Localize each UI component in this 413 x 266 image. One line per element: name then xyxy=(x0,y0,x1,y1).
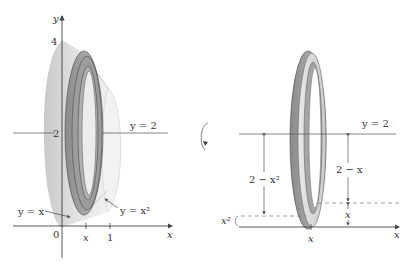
label-inner-radius: 2 − x xyxy=(336,164,363,175)
curve-label-y-x2: y = x² xyxy=(119,205,150,216)
curve-label-y-x: y = x xyxy=(17,206,44,217)
x-axis-label: x xyxy=(394,229,400,240)
x-axis-label: x xyxy=(167,229,173,240)
label-lower-offset: x² xyxy=(221,215,231,226)
right-panel: y = 2 x x 2 − x² 2 − x x x² xyxy=(221,51,400,244)
origin-label: 0 xyxy=(53,229,59,240)
x-tick-x: x xyxy=(83,232,89,243)
y-tick-4: 4 xyxy=(51,36,57,47)
line-label-y-2: y = 2 xyxy=(361,118,389,129)
washer-hole xyxy=(82,71,96,195)
brace-icon xyxy=(235,216,238,226)
washer-hole xyxy=(309,68,321,208)
label-inner-offset: x xyxy=(345,209,351,220)
line-label-y-2: y = 2 xyxy=(129,120,157,131)
washer-method-diagram: y = 2 y 4 2 0 x 1 x y = x y = x² y = 2 xyxy=(0,0,413,266)
rotate-arrow-icon xyxy=(201,123,208,150)
left-panel: y = 2 y 4 2 0 x 1 x y = x y = x² xyxy=(13,13,173,258)
x-tick-1: 1 xyxy=(107,232,113,243)
label-outer-radius: 2 − x² xyxy=(249,174,280,185)
y-axis-label: y xyxy=(52,13,59,24)
y-tick-2: 2 xyxy=(53,128,59,139)
x-tick-x: x xyxy=(308,233,314,244)
